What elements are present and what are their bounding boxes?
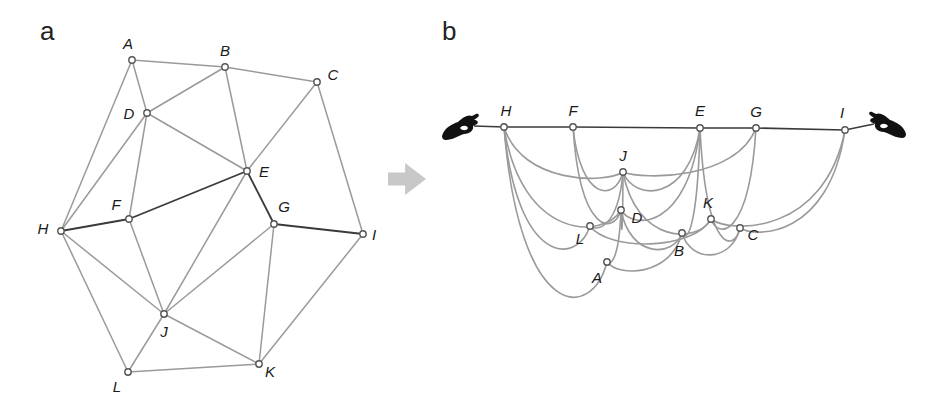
panel-a-edge-A-H <box>61 60 132 231</box>
panel-a-node-label-H: H <box>38 221 49 236</box>
panel-a-edge-E-J <box>164 171 247 314</box>
panel-b-node-E <box>697 125 703 131</box>
panel-a-node-label-K: K <box>265 364 275 379</box>
panel-a-edge-G-I <box>274 224 363 234</box>
panel-a-node-B <box>222 64 228 70</box>
panel-b-node-C <box>737 225 743 231</box>
panel-a-node-label-G: G <box>278 199 290 214</box>
panel-b-string-G-J <box>623 128 756 176</box>
panel-label-a: a <box>40 16 54 47</box>
panel-b-node-label-C: C <box>748 227 759 242</box>
left-hand-string <box>474 126 504 127</box>
panel-a-node-label-C: C <box>328 67 339 82</box>
graph-nodes <box>58 57 848 375</box>
panel-a-edge-D-E <box>147 113 247 171</box>
arrow-right-icon <box>388 163 426 195</box>
panel-b-node-label-A: A <box>592 270 602 285</box>
panel-a-edge-L-K <box>128 364 259 372</box>
panel-a-node-label-B: B <box>220 43 230 58</box>
panel-a-edge-B-C <box>225 67 317 82</box>
panel-a-node-label-A: A <box>123 36 133 51</box>
right-hand-icon <box>869 112 906 138</box>
right-hand-string <box>845 124 874 130</box>
panel-a-edge-B-E <box>225 67 247 171</box>
panel-b-node-label-B: B <box>674 243 684 258</box>
panel-b-node-label-D: D <box>632 210 643 225</box>
panel-a-node-D <box>144 110 150 116</box>
panel-b-node-D <box>618 207 624 213</box>
panel-a-edge-B-D <box>147 67 225 113</box>
panel-a-node-label-I: I <box>372 227 376 242</box>
panel-a-node-A <box>129 57 135 63</box>
panel-a-node-C <box>314 79 320 85</box>
hands <box>442 112 906 140</box>
panel-b-node-label-K: K <box>703 195 713 210</box>
panel-a-node-F <box>126 216 132 222</box>
panel-b-node-label-F: F <box>568 103 577 118</box>
figure: a b ABCDEFGHIJKLHFEGIJDLKCBA <box>0 0 930 410</box>
panel-a-node-J <box>161 311 167 317</box>
panel-a-node-L <box>125 369 131 375</box>
panel-b-node-label-J: J <box>619 148 627 163</box>
panel-a-node-K <box>256 361 262 367</box>
panel-b-node-label-G: G <box>750 104 762 119</box>
panel-a-edge-J-L <box>128 314 164 372</box>
panel-a-edge-D-H <box>61 113 147 231</box>
panel-a-edge-G-K <box>259 224 274 364</box>
panel-b-node-label-L: L <box>576 231 584 246</box>
panel-label-b: b <box>442 16 456 47</box>
panel-b-node-label-E: E <box>695 103 705 118</box>
panel-a-node-G <box>271 221 277 227</box>
panel-a-edge-I-K <box>259 234 363 364</box>
panel-a-edge-J-K <box>164 314 259 364</box>
panel-b-node-label-H: H <box>501 103 512 118</box>
panel-a-edge-D-F <box>129 113 147 219</box>
left-hand-icon <box>442 114 479 140</box>
transform-arrow <box>388 163 426 195</box>
panel-a-node-H <box>58 228 64 234</box>
panel-b-string-E-J <box>623 128 700 191</box>
panel-b-node-G <box>753 125 759 131</box>
panel-a-edge-H-L <box>61 231 128 372</box>
panel-a-edge-C-E <box>247 82 317 171</box>
panel-b-node-H <box>501 124 507 130</box>
panel-a-node-label-L: L <box>113 379 121 394</box>
panel-a-node-label-E: E <box>259 164 269 179</box>
panel-b-node-K <box>708 216 714 222</box>
panel-a-edge-G-J <box>164 224 274 314</box>
panel-a-node-label-F: F <box>111 197 120 212</box>
panel-b-string-H-J <box>504 127 623 178</box>
panel-b-string-J-L <box>590 172 623 228</box>
panel-a-edge-A-B <box>132 60 225 67</box>
panel-b-string-G-K <box>711 128 756 229</box>
panel-b-node-L <box>587 223 593 229</box>
panel-a-edge-H-F <box>61 219 129 231</box>
panel-a-graph-edges <box>61 60 363 372</box>
panel-a-edge-F-E <box>129 171 247 219</box>
panel-b-string-I-K <box>711 130 845 226</box>
diagram-canvas <box>0 0 930 410</box>
panel-b-node-A <box>604 259 610 265</box>
panel-b-node-F <box>570 124 576 130</box>
panel-b-taut-shortest-path <box>504 127 845 130</box>
panel-b-node-B <box>679 230 685 236</box>
panel-a-node-I <box>360 231 366 237</box>
panel-a-node-label-D: D <box>124 106 135 121</box>
panel-b-string-edges <box>474 124 874 297</box>
panel-a-edge-C-I <box>317 82 363 234</box>
panel-a-node-E <box>244 168 250 174</box>
panel-b-node-label-I: I <box>840 105 844 120</box>
panel-b-node-I <box>842 127 848 133</box>
panel-b-node-J <box>620 169 626 175</box>
panel-a-node-label-J: J <box>160 324 168 339</box>
panel-b-string-I-C <box>740 130 845 232</box>
